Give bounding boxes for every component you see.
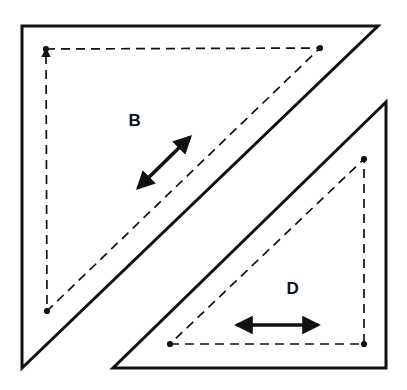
region-label-b: B <box>129 111 142 130</box>
vertex-dot-d-bottom-left <box>167 341 173 347</box>
figure-container: B D <box>0 0 407 390</box>
region-label-d: D <box>287 279 300 298</box>
vertex-dot-d-top-right <box>361 156 367 162</box>
geometry-figure: B D <box>0 0 407 390</box>
vertex-dot-b-top-left <box>43 46 49 52</box>
vertex-dot-b-top-right <box>317 45 323 51</box>
vertex-dot-d-bottom-right <box>361 341 367 347</box>
vertex-dot-b-bottom-left <box>44 308 50 314</box>
